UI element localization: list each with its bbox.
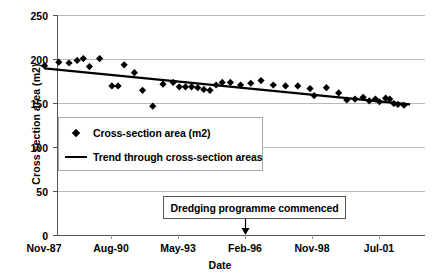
- data-point: [96, 55, 103, 62]
- y-tick-label-150: 150: [8, 98, 48, 110]
- line-marker-icon: [59, 156, 93, 159]
- x-axis-title: Date: [0, 259, 440, 271]
- y-axis-title: Cross section area (m2): [30, 44, 42, 204]
- data-point: [80, 55, 87, 62]
- x-tick-label-feb-96: Feb-96: [210, 242, 280, 254]
- x-tick-label-may-93: May-93: [143, 242, 213, 254]
- data-point: [74, 57, 81, 64]
- data-point: [227, 79, 234, 86]
- data-point: [306, 85, 313, 92]
- data-point: [176, 83, 183, 90]
- x-tick-label-aug-90: Aug-90: [76, 242, 146, 254]
- data-point: [351, 96, 358, 103]
- diamond-marker-icon: [59, 130, 93, 136]
- x-tick-label-nov-87: Nov-87: [9, 242, 79, 254]
- data-point: [257, 77, 264, 84]
- data-point: [294, 82, 301, 89]
- data-point: [270, 81, 277, 88]
- y-tick-label-250: 250: [8, 10, 48, 22]
- legend-item-cross-section-area: Cross-section area (m2): [59, 123, 264, 143]
- data-point: [200, 86, 207, 93]
- y-tick-label-0: 0: [8, 230, 48, 242]
- x-tick-label-jul-01: Jul-01: [344, 242, 414, 254]
- annotation-arrow: [242, 219, 250, 235]
- data-point: [139, 87, 146, 94]
- data-point: [282, 82, 289, 89]
- data-point: [188, 83, 195, 90]
- data-point: [212, 81, 219, 88]
- data-point: [194, 84, 201, 91]
- data-point: [121, 61, 128, 68]
- data-point: [86, 63, 93, 70]
- data-point: [323, 84, 330, 91]
- legend-label-trend: Trend through cross-section areas: [93, 151, 262, 163]
- legend-item-trend: Trend through cross-section areas: [59, 147, 264, 167]
- data-point: [311, 92, 318, 99]
- y-tick-label-50: 50: [8, 186, 48, 198]
- data-point: [206, 87, 213, 94]
- legend-label-cross-section-area: Cross-section area (m2): [93, 127, 210, 139]
- annotation-box-dredging: Dredging programme commenced: [163, 196, 346, 219]
- data-point: [159, 81, 166, 88]
- data-point: [131, 69, 138, 76]
- data-point: [335, 89, 342, 96]
- y-tick-label-200: 200: [8, 54, 48, 66]
- data-point: [108, 82, 115, 89]
- data-point: [65, 59, 72, 66]
- y-tick-label-100: 100: [8, 142, 48, 154]
- chart-container: 250 200 150 100 50 0 Nov-87 Aug-90 May-9…: [0, 0, 440, 279]
- chart-legend: Cross-section area (m2) Trend through cr…: [58, 117, 263, 171]
- data-point: [182, 83, 189, 90]
- data-point: [114, 82, 121, 89]
- annotation-text: Dredging programme commenced: [170, 202, 338, 214]
- scatter-markers: [41, 55, 408, 110]
- y-tick-marks: [53, 16, 57, 236]
- x-tick-label-nov-98: Nov-98: [277, 242, 347, 254]
- data-point: [247, 80, 254, 87]
